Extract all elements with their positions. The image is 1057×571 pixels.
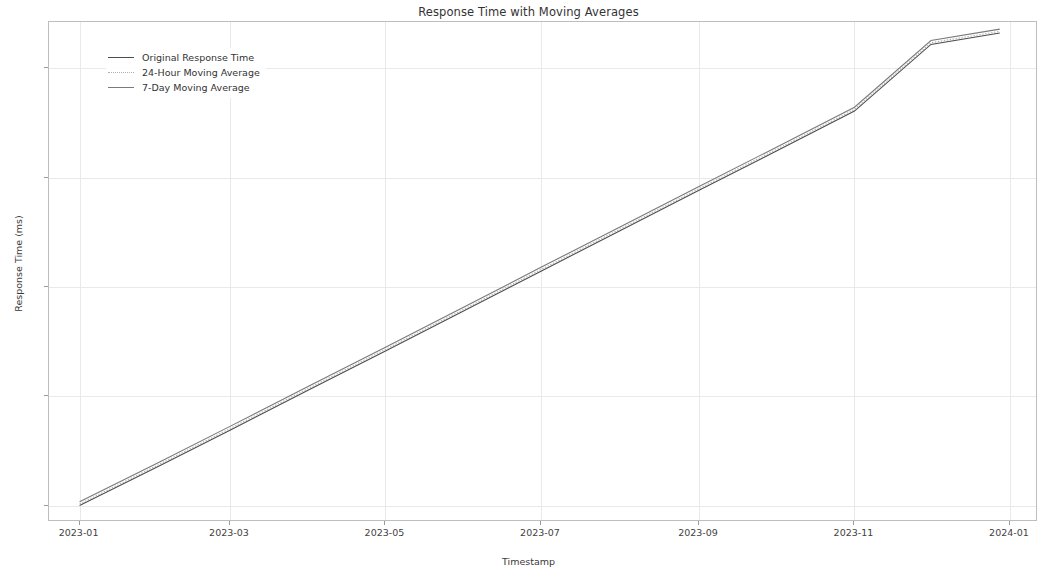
x-tick-mark — [540, 521, 541, 525]
x-tick-label: 2023-05 — [365, 527, 405, 538]
legend-line-swatch — [108, 68, 134, 78]
legend-item: 7-Day Moving Average — [108, 80, 260, 95]
y-tick-mark — [44, 505, 48, 506]
plot-area: Original Response Time24-Hour Moving Ave… — [48, 21, 1037, 521]
y-tick-mark — [44, 177, 48, 178]
x-tick-label: 2023-11 — [834, 527, 874, 538]
y-tick-mark — [44, 395, 48, 396]
chart-figure: Response Time with Moving Averages Origi… — [0, 0, 1057, 571]
legend-item: 24-Hour Moving Average — [108, 65, 260, 80]
x-tick-label: 2023-01 — [59, 527, 99, 538]
chart-legend: Original Response Time24-Hour Moving Ave… — [106, 48, 266, 98]
x-tick-label: 2023-07 — [520, 527, 560, 538]
x-tick-mark — [79, 521, 80, 525]
x-tick-mark — [229, 521, 230, 525]
x-axis-label: Timestamp — [0, 556, 1057, 567]
legend-item: Original Response Time — [108, 50, 260, 65]
y-tick-mark — [44, 286, 48, 287]
legend-line-swatch — [108, 53, 134, 63]
x-tick-mark — [1009, 521, 1010, 525]
series-line — [80, 29, 1000, 502]
x-tick-label: 2023-09 — [678, 527, 718, 538]
x-tick-mark — [384, 521, 385, 525]
legend-label: 24-Hour Moving Average — [142, 67, 260, 78]
x-tick-mark — [853, 521, 854, 525]
y-axis-label: Response Time (ms) — [13, 154, 24, 374]
x-tick-label: 2024-01 — [989, 527, 1029, 538]
x-tick-label: 2023-03 — [209, 527, 249, 538]
chart-title: Response Time with Moving Averages — [0, 5, 1057, 19]
series-line — [80, 33, 1000, 506]
legend-label: Original Response Time — [142, 52, 254, 63]
legend-line-swatch — [108, 83, 134, 93]
y-tick-mark — [44, 67, 48, 68]
x-tick-mark — [698, 521, 699, 525]
legend-label: 7-Day Moving Average — [142, 82, 250, 93]
